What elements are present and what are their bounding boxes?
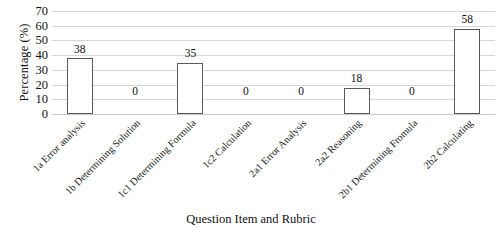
x-axis-label-slot: 2b2 Calculating <box>440 116 495 202</box>
y-axis-tick-label: 70 <box>36 5 49 18</box>
bar-slot: 0 <box>274 11 329 114</box>
bar-slot: 18 <box>329 11 384 114</box>
bar-value-label: 58 <box>440 14 495 26</box>
bar-value-label: 38 <box>52 44 107 56</box>
bar-value-label: 0 <box>274 86 329 98</box>
bar[interactable] <box>67 58 93 114</box>
bar[interactable] <box>344 88 370 114</box>
y-axis-tick-label: 30 <box>36 64 49 77</box>
y-axis-tick-labels: 706050403020100 <box>24 11 48 114</box>
y-axis-tick-label: 50 <box>36 34 49 47</box>
x-axis-category-label: 1a Error analysis <box>31 118 87 174</box>
bar-value-label: 0 <box>107 86 162 98</box>
bar-chart: Percentage (%) 706050403020100 380350018… <box>0 0 502 240</box>
x-axis-title: Question Item and Rubric <box>0 212 502 227</box>
bar-value-label: 35 <box>163 48 218 60</box>
bar-slot: 35 <box>163 11 218 114</box>
y-axis-tick-label: 40 <box>36 49 49 62</box>
bar-value-label: 18 <box>329 73 384 85</box>
bar[interactable] <box>454 29 480 114</box>
bar-slot: 58 <box>440 11 495 114</box>
bar-slot: 0 <box>218 11 273 114</box>
plot-area: 380350018058 <box>52 11 495 114</box>
bar-slot: 0 <box>384 11 439 114</box>
x-axis-category-labels: 1a Error analysis1b Determining Solution… <box>52 116 495 202</box>
y-axis-tick-label: 60 <box>36 19 49 32</box>
bar-slot: 38 <box>52 11 107 114</box>
bars-layer: 380350018058 <box>52 11 495 114</box>
axis-baseline <box>52 114 495 115</box>
y-axis-tick-label: 0 <box>42 108 48 121</box>
bar-slot: 0 <box>107 11 162 114</box>
y-axis-tick-label: 20 <box>36 78 49 91</box>
bar-value-label: 0 <box>218 86 273 98</box>
bar-value-label: 0 <box>384 86 439 98</box>
bar[interactable] <box>177 63 203 115</box>
y-axis-tick-label: 10 <box>36 93 49 106</box>
